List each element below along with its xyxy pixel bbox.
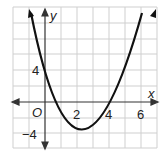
x-tick-4: 4 [105,107,112,122]
parabola-graph: y x O 2 4 6 4 −4 [0,0,166,156]
right-arrowhead [150,9,156,18]
y-axis-label: y [49,8,58,23]
x-tick-2: 2 [73,107,80,122]
left-arrowhead [28,9,34,18]
x-tick-6: 6 [137,107,144,122]
x-axis-label: x [147,86,155,101]
y-tick-4: 4 [32,63,39,78]
y-tick-neg4: −4 [22,127,37,142]
origin-label: O [32,105,42,120]
